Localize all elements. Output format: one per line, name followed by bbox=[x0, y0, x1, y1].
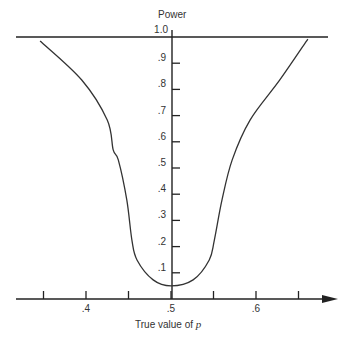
x-axis-title-variable: p bbox=[196, 318, 202, 330]
x-axis-title: True value of p bbox=[135, 319, 201, 330]
y-axis-ticks bbox=[172, 63, 180, 273]
x-axis-arrow-icon bbox=[322, 295, 338, 303]
x-axis-ticks bbox=[44, 291, 299, 299]
y-tick-label: .9 bbox=[146, 53, 166, 63]
y-tick-label: .3 bbox=[146, 210, 166, 220]
y-tick-label: .7 bbox=[146, 106, 166, 116]
y-axis-title: Power bbox=[158, 10, 186, 20]
x-axis-title-prefix: True value of bbox=[135, 319, 196, 330]
y-tick-label: .8 bbox=[146, 79, 166, 89]
y-tick-label: .4 bbox=[146, 184, 166, 194]
x-tick-label: .6 bbox=[244, 304, 268, 314]
y-tick-label: .1 bbox=[146, 263, 166, 273]
y-tick-label: .2 bbox=[146, 237, 166, 247]
x-tick-label: .4 bbox=[74, 304, 98, 314]
y-tick-label: 1.0 bbox=[148, 25, 168, 35]
y-tick-label: .5 bbox=[146, 158, 166, 168]
power-curve-plot bbox=[0, 0, 348, 344]
y-tick-label: .6 bbox=[146, 132, 166, 142]
power-curve-line bbox=[40, 39, 308, 286]
x-tick-label: .5 bbox=[159, 304, 183, 314]
